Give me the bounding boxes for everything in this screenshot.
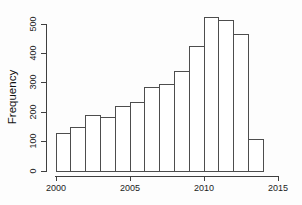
histogram-chart: Frequency 010020030040050020002005201020… [0,0,302,205]
y-tick-label: 100 [29,133,38,148]
histogram-bar [248,139,264,172]
x-axis-tick [278,177,279,181]
y-axis-tick [41,171,46,172]
histogram-bar [56,133,71,172]
histogram-bar [189,46,205,172]
y-axis-title: Frequency [7,70,19,124]
x-axis-line [55,176,279,177]
x-tick-label: 2000 [46,184,66,193]
y-tick-label: 0 [29,168,38,173]
y-tick-label: 400 [29,45,38,60]
y-axis-tick [41,53,46,54]
histogram-bar [174,71,190,172]
y-tick-label: 300 [29,74,38,89]
y-tick-label: 200 [29,104,38,119]
y-axis-tick [41,24,46,25]
y-axis-line [46,24,47,172]
histogram-bar [233,34,249,172]
x-axis-tick [56,177,57,181]
histogram-bar [85,115,101,172]
histogram-bar [204,17,219,172]
histogram-bar [144,87,160,172]
histogram-bar [130,102,145,172]
x-tick-label: 2010 [194,184,214,193]
x-tick-label: 2005 [120,184,140,193]
y-axis-tick [41,82,46,83]
x-axis-tick [130,177,131,181]
x-tick-label: 2015 [268,184,288,193]
y-axis-tick [41,112,46,113]
x-axis-tick [204,177,205,181]
histogram-bar [100,117,116,172]
y-axis-tick [41,141,46,142]
histogram-bar [70,127,86,172]
histogram-bar [115,106,131,172]
histogram-bar [159,84,175,172]
histogram-bar [218,20,234,172]
y-tick-label: 500 [29,16,38,31]
